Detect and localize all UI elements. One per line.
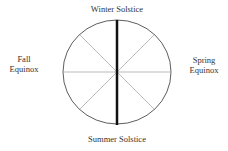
fall-label-line1: Fall	[6, 54, 42, 64]
spring-label-line1: Spring	[186, 55, 222, 65]
winter-solstice-label: Winter Solstice	[85, 4, 149, 14]
fall-equinox-label: Fall Equinox	[6, 54, 42, 74]
fall-label-line2: Equinox	[6, 64, 42, 74]
spring-equinox-label: Spring Equinox	[186, 55, 222, 75]
spring-label-line2: Equinox	[186, 65, 222, 75]
seasons-diagram	[0, 0, 228, 151]
summer-solstice-label: Summer Solstice	[82, 134, 152, 144]
